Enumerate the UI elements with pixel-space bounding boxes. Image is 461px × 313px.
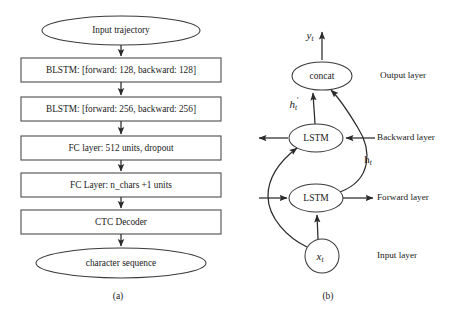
node-fc-1: FC layer: 512 units, dropout (21, 136, 221, 160)
panel-a: Input trajectory BLSTM: [forward: 128, b… (21, 16, 221, 302)
node-concat: concat (292, 62, 352, 90)
svg-text:ht: ht (364, 153, 373, 167)
blstm-2-label: BLSTM: [forward: 256, backward: 256] (46, 104, 196, 114)
input-layer-label: Input layer (377, 250, 417, 260)
node-lstm-forward: LSTM (289, 184, 343, 212)
blstm-1-label: BLSTM: [forward: 128, backward: 128] (46, 65, 196, 75)
panel-b-caption: (b) (322, 291, 333, 302)
output-layer-label: Output layer (380, 70, 426, 80)
label-h-prime-t: ht' (290, 95, 300, 111)
lstm-forward-label: LSTM (303, 193, 329, 203)
arrow-backward-lstm-to-concat (313, 93, 315, 124)
node-blstm-2: BLSTM: [forward: 256, backward: 256] (21, 97, 221, 121)
fc-2-label: FC Layer: n_chars +1 units (70, 180, 172, 190)
svg-text:yt: yt (306, 29, 315, 43)
h-t-subscript: t (370, 157, 373, 166)
node-lstm-backward: LSTM (289, 124, 343, 152)
svg-text:ht': ht' (290, 95, 300, 111)
fc-1-label: FC layer: 512 units, dropout (68, 143, 174, 153)
node-input-x: xt (305, 239, 339, 273)
h-prime-t-prime: ' (297, 95, 299, 104)
panel-b: yt concat Output layer ht' ht LSTM (259, 29, 435, 303)
backward-layer-label: Backward layer (377, 132, 435, 142)
label-y-t: yt (306, 29, 315, 43)
node-character-sequence: character sequence (36, 248, 206, 278)
node-blstm-1: BLSTM: [forward: 128, backward: 128] (21, 58, 221, 82)
input-trajectory-label: Input trajectory (92, 25, 150, 35)
figure-container: Input trajectory BLSTM: [forward: 128, b… (0, 0, 461, 313)
label-h-t: ht (364, 153, 373, 167)
panel-a-caption: (a) (113, 291, 124, 302)
architecture-diagram: Input trajectory BLSTM: [forward: 128, b… (0, 0, 461, 313)
node-fc-2: FC Layer: n_chars +1 units (21, 173, 221, 197)
lstm-backward-label: LSTM (303, 133, 329, 143)
concat-label: concat (310, 71, 335, 81)
y-t-subscript: t (311, 33, 314, 42)
character-sequence-label: character sequence (86, 258, 156, 268)
node-ctc-decoder: CTC Decoder (21, 210, 221, 234)
ctc-decoder-label: CTC Decoder (95, 217, 148, 227)
node-input-trajectory: Input trajectory (42, 16, 200, 45)
arrow-xt-to-forward-lstm (317, 215, 318, 239)
forward-layer-label: Forward layer (377, 192, 429, 202)
